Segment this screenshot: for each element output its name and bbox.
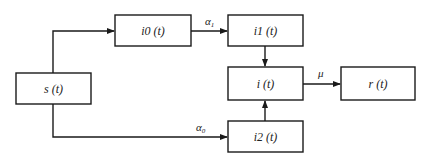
node-i1: i1 (t) (228, 15, 303, 46)
flow-diagram: α1 μ α0 s (t) i0 (t) i1 (t) i (t) r (t) … (0, 0, 430, 166)
node-s: s (t) (16, 73, 91, 104)
svg-text:s (t): s (t) (44, 82, 63, 96)
edge-i0-to-i1: α1 (191, 15, 227, 31)
svg-text:i2 (t): i2 (t) (254, 130, 278, 144)
svg-text:i (t): i (t) (257, 77, 275, 91)
edge-label-mu: μ (317, 67, 324, 79)
node-i0: i0 (t) (115, 15, 191, 46)
edge-i-to-r: μ (303, 67, 340, 84)
node-r: r (t) (341, 67, 415, 100)
svg-text:i1 (t): i1 (t) (254, 24, 278, 38)
svg-text:r (t): r (t) (369, 77, 388, 91)
node-i: i (t) (228, 67, 303, 100)
edge-s-to-i0 (53, 31, 114, 73)
svg-text:i0 (t): i0 (t) (141, 24, 165, 38)
edge-label-alpha1: α1 (205, 15, 214, 29)
edge-label-alpha0: α0 (196, 121, 206, 135)
node-i2: i2 (t) (228, 121, 303, 152)
edge-s-to-i2: α0 (53, 104, 227, 137)
